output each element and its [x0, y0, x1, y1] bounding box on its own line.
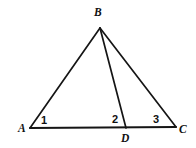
angle-label-2: 2 [112, 113, 118, 125]
geometry-figure: A B C D 1 2 3 [0, 0, 196, 148]
vertex-label-d: D [120, 132, 130, 144]
vertex-label-c: C [179, 123, 187, 135]
segment-ac-line [30, 127, 176, 128]
angle-label-1: 1 [41, 114, 47, 126]
geometry-canvas: A B C D 1 2 3 [0, 0, 196, 148]
angle-label-3: 3 [153, 113, 159, 125]
vertex-label-a: A [17, 122, 26, 134]
vertex-label-b: B [93, 6, 102, 18]
